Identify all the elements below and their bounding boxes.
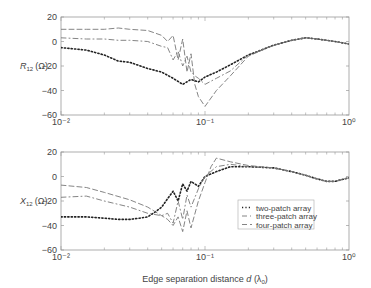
x-tick-label: 10⁰: [342, 117, 356, 127]
chart-figure: 200−20−40−6010⁻²10⁻¹10⁰R12(Ω) 200−20−40−…: [0, 0, 371, 288]
y-tick-label: 20: [47, 147, 57, 157]
y-axis-label: X12(Ω): [19, 196, 47, 207]
y-tick-label: 0: [52, 172, 57, 182]
y-tick-label: 0: [52, 37, 57, 47]
y-axis-label: R12(Ω): [20, 61, 48, 72]
x-tick-label: 10⁻¹: [196, 252, 214, 262]
series-four-patch-array: [61, 28, 349, 106]
series-two-patch-array: [61, 38, 349, 85]
y-tick-label: −40: [42, 86, 57, 96]
x-tick-label: 10⁻¹: [196, 117, 214, 127]
plot-frame: [61, 17, 349, 115]
y-tick-label: 20: [47, 12, 57, 22]
x-tick-label: 10⁻²: [52, 117, 70, 127]
x-tick-label: 10⁻²: [52, 252, 70, 262]
legend: two-patch arraythree-patch arrayfour-pat…: [238, 200, 317, 230]
y-tick-label: −40: [42, 221, 57, 231]
x-tick-label: 10⁰: [342, 252, 356, 262]
plot-r12: 200−20−40−6010⁻²10⁻¹10⁰R12(Ω): [20, 12, 356, 127]
legend-label: four-patch array: [256, 221, 312, 230]
x-axis-label: Edge separation distance d (λ0): [142, 274, 267, 285]
